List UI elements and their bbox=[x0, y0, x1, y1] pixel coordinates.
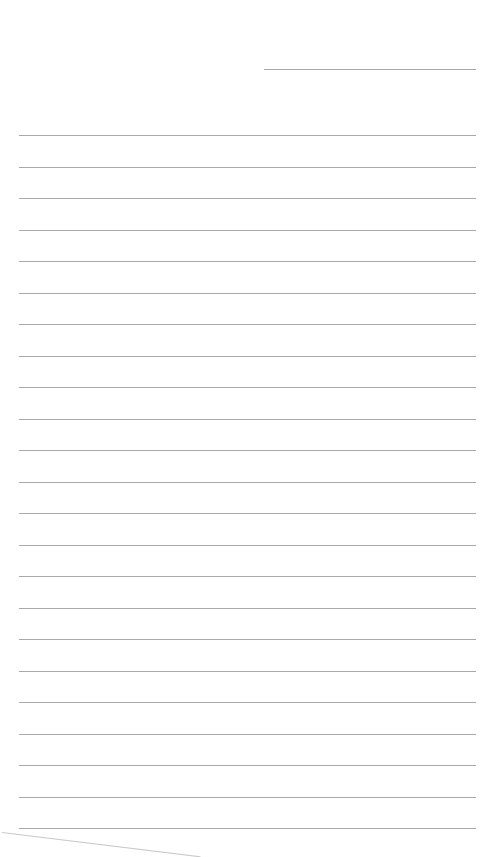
ruled-line bbox=[19, 576, 476, 577]
ruled-line bbox=[19, 135, 476, 136]
ruled-line bbox=[19, 797, 476, 798]
ruled-line bbox=[19, 324, 476, 325]
ruled-line bbox=[19, 261, 476, 262]
ruled-line bbox=[19, 702, 476, 703]
pencil-stroke bbox=[2, 832, 201, 857]
ruled-line bbox=[19, 293, 476, 294]
ruled-line bbox=[19, 513, 476, 514]
ruled-line bbox=[19, 167, 476, 168]
ruled-line bbox=[19, 828, 476, 829]
ruled-line bbox=[19, 608, 476, 609]
ruled-line bbox=[19, 482, 476, 483]
ruled-line bbox=[19, 545, 476, 546]
ruled-line bbox=[19, 671, 476, 672]
ruled-line bbox=[19, 450, 476, 451]
ruled-line bbox=[19, 639, 476, 640]
ruled-line bbox=[19, 230, 476, 231]
ruled-line bbox=[19, 198, 476, 199]
header-line bbox=[264, 69, 476, 70]
ruled-line bbox=[19, 387, 476, 388]
ruled-line bbox=[19, 356, 476, 357]
ruled-line bbox=[19, 765, 476, 766]
ruled-line bbox=[19, 419, 476, 420]
ruled-line bbox=[19, 734, 476, 735]
